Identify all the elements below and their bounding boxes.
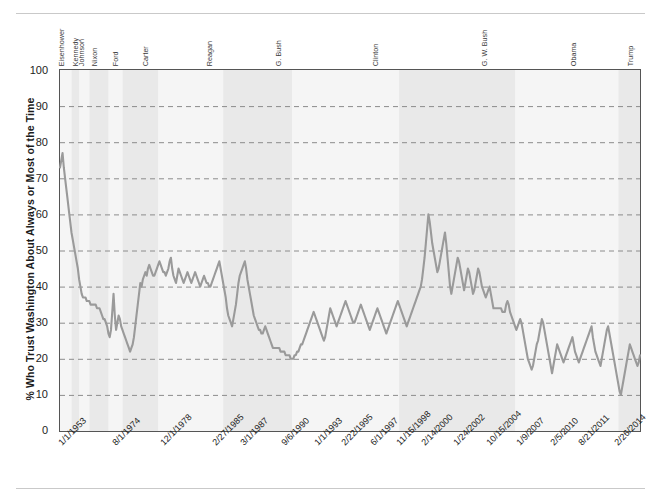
chart-page: % Who Trust Washington About Always or M… — [0, 0, 661, 499]
president-label: Eisenhower — [58, 28, 65, 66]
president-label: Obama — [570, 42, 577, 66]
president-label: G. W. Bush — [481, 30, 488, 66]
president-label: G. Bush — [275, 40, 282, 66]
presidential-labels: EisenhowerKennedyJohnsonNixonFordCarterR… — [0, 0, 661, 68]
x-axis-tick-labels: 1/1/19538/1/197412/1/19782/27/19853/1/19… — [0, 437, 661, 492]
president-label: Trump — [626, 46, 633, 67]
president-label: Ford — [111, 51, 118, 66]
president-label: Carter — [142, 46, 149, 66]
president-label: Nixon — [91, 48, 98, 66]
president-label: Clinton — [371, 44, 378, 66]
president-label: Reagan — [206, 41, 213, 66]
term-band — [292, 70, 399, 431]
president-label: Johnson — [78, 39, 85, 66]
